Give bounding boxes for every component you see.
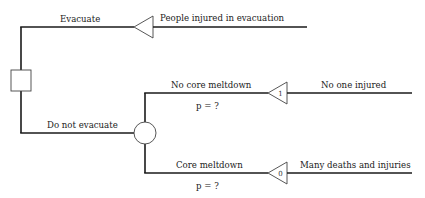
do-not-evacuate-label: Do not evacuate: [47, 120, 118, 130]
chance-node-circle: [134, 122, 156, 144]
meltdown-outcome-label: Many deaths and injuries: [300, 160, 411, 170]
no-meltdown-label: No core meltdown: [171, 80, 252, 90]
no-meltdown-outcome-label: No one injured: [321, 80, 387, 90]
no-meltdown-value: 1: [278, 90, 282, 98]
decision-tree-diagram: Evacuate People injured in evacuation Do…: [0, 0, 425, 198]
evacuate-label: Evacuate: [60, 14, 100, 24]
meltdown-label: Core meltdown: [176, 160, 243, 170]
meltdown-probability: p = ?: [196, 181, 219, 191]
decision-node-square: [11, 70, 31, 91]
evacuate-terminal-triangle: [134, 16, 153, 38]
no-meltdown-probability: p = ?: [196, 101, 219, 111]
meltdown-value: 0: [278, 170, 282, 178]
evacuate-outcome-label: People injured in evacuation: [160, 13, 285, 23]
